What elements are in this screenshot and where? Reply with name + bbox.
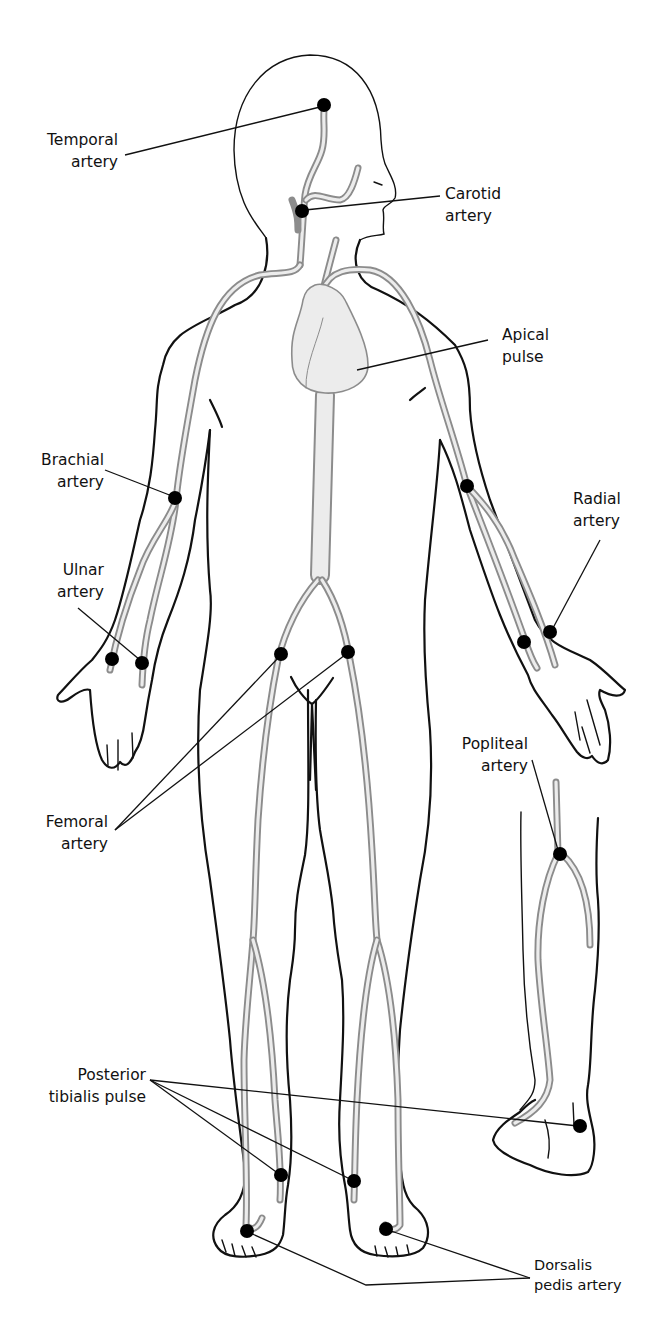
label-carotid-artery: Carotid artery xyxy=(445,183,501,227)
pulse-dot-radial-2 xyxy=(543,625,557,639)
pulse-dot-popliteal xyxy=(553,847,567,861)
label-apical-pulse: Apical pulse xyxy=(502,324,549,368)
label-line: artery xyxy=(30,833,108,855)
label-line: artery xyxy=(573,510,621,532)
pulse-dot-ulnar-2 xyxy=(135,656,149,670)
label-popliteal-artery: Popliteal artery xyxy=(440,733,528,777)
pulse-points-diagram xyxy=(0,0,663,1339)
label-line: Posterior xyxy=(30,1064,146,1086)
pulse-dot-brachial-right xyxy=(460,479,474,493)
label-femoral-artery: Femoral artery xyxy=(30,811,108,855)
label-line: pulse xyxy=(502,346,549,368)
label-dorsalis-pedis-artery: Dorsalis pedis artery xyxy=(534,1255,622,1295)
heart xyxy=(292,284,368,393)
pulse-dot-posterior-tibialis-right xyxy=(347,1174,361,1188)
label-ulnar-artery: Ulnar artery xyxy=(30,559,104,603)
label-line: artery xyxy=(20,471,104,493)
label-line: artery xyxy=(440,755,528,777)
label-line: Carotid xyxy=(445,183,501,205)
pulse-dot-dorsalis-pedis-right xyxy=(379,1222,393,1236)
pulse-dot-temporal xyxy=(317,98,331,112)
pulse-dot-brachial xyxy=(168,491,182,505)
pulse-dot-ulnar-1 xyxy=(105,652,119,666)
label-radial-artery: Radial artery xyxy=(573,488,621,532)
label-line: Femoral xyxy=(30,811,108,833)
label-brachial-artery: Brachial artery xyxy=(20,449,104,493)
pulse-dot-radial-1 xyxy=(517,635,531,649)
label-line: Ulnar xyxy=(30,559,104,581)
pulse-dot-femoral-right xyxy=(341,645,355,659)
arteries xyxy=(110,110,590,1230)
pulse-dot-dorsalis-pedis-left xyxy=(240,1224,254,1238)
pulse-dot-posterior-tibialis-left xyxy=(274,1168,288,1182)
pulse-dot-carotid xyxy=(295,204,309,218)
label-line: artery xyxy=(30,581,104,603)
label-temporal-artery: Temporal artery xyxy=(38,129,118,173)
label-line: artery xyxy=(445,205,501,227)
label-line: Radial xyxy=(573,488,621,510)
pulse-dot-posterior-tibialis-side xyxy=(573,1119,587,1133)
label-line: Popliteal xyxy=(440,733,528,755)
label-line: artery xyxy=(38,151,118,173)
label-line: Brachial xyxy=(20,449,104,471)
label-line: pedis artery xyxy=(534,1275,622,1295)
label-posterior-tibialis-pulse: Posterior tibialis pulse xyxy=(30,1064,146,1108)
pulse-dot-femoral-left xyxy=(274,647,288,661)
label-line: Apical xyxy=(502,324,549,346)
label-line: Dorsalis xyxy=(534,1255,622,1275)
label-line: Temporal xyxy=(38,129,118,151)
label-line: tibialis pulse xyxy=(30,1086,146,1108)
